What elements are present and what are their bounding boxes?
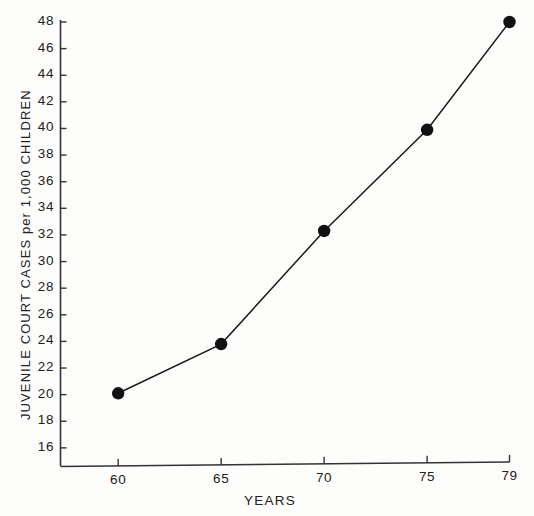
y-tick-label: 20 xyxy=(20,386,54,401)
line-chart-plot xyxy=(0,0,534,516)
x-axis-line xyxy=(61,462,510,467)
data-point-marker xyxy=(421,124,433,136)
x-tick-label: 70 xyxy=(304,470,344,485)
chart-axes xyxy=(61,20,510,467)
data-series-markers xyxy=(112,16,516,400)
x-tick-label: 79 xyxy=(490,468,530,483)
y-tick-label: 22 xyxy=(20,359,54,374)
y-tick-label: 34 xyxy=(20,199,54,214)
x-tick-label: 60 xyxy=(98,472,138,487)
y-tick-label: 18 xyxy=(20,412,54,427)
data-point-marker xyxy=(112,387,124,399)
x-tick-label: 65 xyxy=(201,471,241,486)
y-tick-label: 40 xyxy=(20,119,54,134)
y-tick-label: 46 xyxy=(20,40,54,55)
y-tick-label: 36 xyxy=(20,173,54,188)
y-tick-label: 24 xyxy=(20,332,54,347)
y-tick-label: 42 xyxy=(20,93,54,108)
y-tick-label: 30 xyxy=(20,253,54,268)
data-series-line xyxy=(118,22,509,393)
x-tick-label: 75 xyxy=(407,469,447,484)
data-point-marker xyxy=(318,225,330,237)
data-point-marker xyxy=(215,338,227,350)
chart-figure: JUVENILE COURT CASES per 1,000 CHILDREN … xyxy=(0,0,534,516)
y-tick-label: 48 xyxy=(20,13,54,28)
y-axis-ticks xyxy=(61,22,67,448)
y-tick-label: 38 xyxy=(20,146,54,161)
y-tick-label: 28 xyxy=(20,279,54,294)
y-tick-label: 32 xyxy=(20,226,54,241)
y-tick-label: 16 xyxy=(20,439,54,454)
y-tick-label: 44 xyxy=(20,66,54,81)
x-axis-label: YEARS xyxy=(210,493,330,508)
data-point-marker xyxy=(503,16,515,28)
y-tick-label: 26 xyxy=(20,306,54,321)
